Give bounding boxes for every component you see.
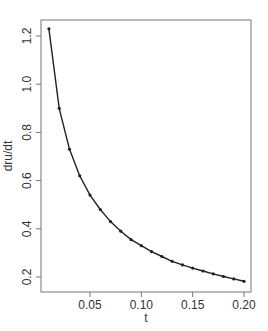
data-point — [242, 280, 245, 283]
data-point — [171, 260, 174, 263]
x-tick-label: 0.10 — [130, 298, 154, 312]
y-tick-label: 0.6 — [20, 172, 34, 189]
data-point — [99, 208, 102, 211]
data-point — [58, 107, 61, 110]
data-point — [181, 263, 184, 266]
data-point — [201, 269, 204, 272]
data-point — [129, 238, 132, 241]
data-point — [232, 277, 235, 280]
data-point — [119, 230, 122, 233]
chart-root: 0.20.40.60.81.01.2 0.050.100.150.20 t dr… — [0, 0, 268, 331]
data-point — [78, 174, 81, 177]
data-point — [47, 27, 50, 30]
y-axis: 0.20.40.60.81.01.2 — [20, 27, 41, 285]
x-tick-label: 0.15 — [181, 298, 205, 312]
y-tick-label: 0.4 — [20, 220, 34, 237]
y-axis-label: dru/dt — [1, 140, 15, 171]
x-axis: 0.050.100.150.20 — [78, 292, 256, 312]
y-tick-label: 1.0 — [20, 76, 34, 93]
data-point — [109, 220, 112, 223]
data-point — [212, 272, 215, 275]
data-series — [47, 27, 245, 283]
data-point — [88, 193, 91, 196]
x-tick-label: 0.05 — [78, 298, 102, 312]
y-tick-label: 1.2 — [20, 27, 34, 44]
x-axis-label: t — [144, 311, 148, 325]
y-tick-label: 0.2 — [20, 268, 34, 285]
series-line — [49, 29, 244, 281]
line-chart: 0.20.40.60.81.01.2 0.050.100.150.20 t dr… — [0, 0, 268, 331]
data-point — [140, 244, 143, 247]
data-point — [222, 275, 225, 278]
y-tick-label: 0.8 — [20, 124, 34, 141]
data-point — [150, 250, 153, 253]
data-point — [160, 255, 163, 258]
data-point — [68, 148, 71, 151]
data-point — [191, 266, 194, 269]
x-tick-label: 0.20 — [232, 298, 256, 312]
